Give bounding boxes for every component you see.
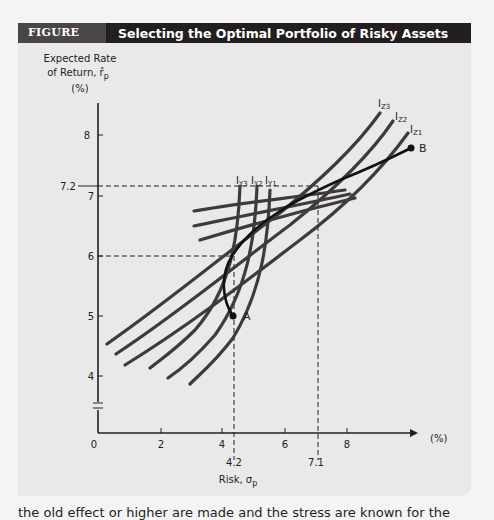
point-a-label: A [243,310,251,323]
footer-text: the old effect or higher are made and th… [18,505,450,520]
reference-lines [78,186,318,460]
point-b-marker [408,145,415,152]
x-axis [98,428,418,437]
y-axis-label-line1: Expected Rate [44,53,117,64]
efficient-set-curve [224,148,411,316]
y-tick-7: 7 [88,191,94,202]
x-tick-8: 8 [344,439,350,450]
iy-curves [150,186,355,384]
y-tick-5: 5 [88,311,94,322]
y-axis-label-line2: of Return, r̂p [47,67,109,81]
y-tick-8: 8 [84,130,90,141]
x-tick-7-1: 7.1 [308,457,324,468]
y-tick-4: 4 [88,371,94,382]
x-tick-4: 4 [219,439,225,450]
point-b-label: B [419,142,427,155]
iz1-label: IZ1 [410,124,422,137]
x-tick-2: 2 [158,439,164,450]
y-axis-unit: (%) [71,83,88,94]
y-ref-7-2: 7.2 [60,181,76,192]
y-tick-6: 6 [88,251,94,262]
iz3-label: IZ3 [378,98,390,111]
y-axis [93,103,103,433]
x-axis-label: Risk, σp [219,474,258,488]
iz-curves [107,113,408,365]
point-a-marker [230,313,237,320]
x-axis-unit: (%) [430,433,447,444]
iz2-label: IZ2 [395,111,407,124]
x-tick-0: 0 [91,439,97,450]
x-tick-6: 6 [282,439,288,450]
